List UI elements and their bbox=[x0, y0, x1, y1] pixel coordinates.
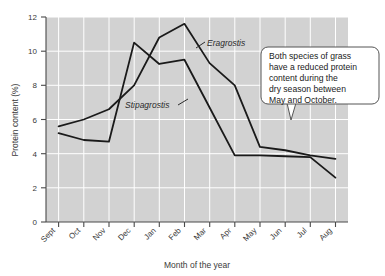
y-tick-label-8: 8 bbox=[33, 81, 38, 90]
month-label-aug: Aug bbox=[317, 226, 333, 242]
month-label-jan: Jan bbox=[142, 226, 157, 241]
y-tick-label-10: 10 bbox=[28, 47, 37, 56]
y-axis-ticks bbox=[41, 17, 46, 222]
callout-text-line-2: have a reduced protein bbox=[269, 62, 357, 72]
x-axis-month-labels: Sept Oct Nov Dec Jan Feb Mar Apr May Jun… bbox=[39, 226, 334, 245]
month-label-sept: Sept bbox=[39, 226, 58, 245]
month-label-dec: Dec bbox=[116, 226, 132, 242]
month-label-oct: Oct bbox=[67, 226, 83, 242]
callout-text-line-1: Both species of grass bbox=[269, 51, 351, 61]
month-label-mar: Mar bbox=[192, 226, 208, 242]
y-tick-label-6: 6 bbox=[33, 116, 38, 125]
month-label-jul: Jul bbox=[295, 226, 309, 240]
y-tick-label-12: 12 bbox=[28, 13, 37, 22]
callout-text-line-4: dry season between bbox=[269, 84, 346, 94]
month-label-apr: Apr bbox=[218, 226, 233, 241]
y-axis-title: Protein content (%) bbox=[10, 83, 20, 156]
month-label-nov: Nov bbox=[91, 226, 107, 242]
callout-text-line-3: content during the bbox=[269, 73, 338, 83]
figure-container: 0 2 4 6 8 10 12 Sept Oct Nov Dec Ja bbox=[0, 0, 385, 276]
x-axis-title: Month of the year bbox=[164, 260, 230, 270]
callout-text-line-5: May and October. bbox=[269, 95, 337, 105]
month-label-jun: Jun bbox=[268, 226, 283, 241]
y-tick-label-4: 4 bbox=[33, 150, 38, 159]
month-label-may: May bbox=[241, 226, 258, 243]
y-tick-label-2: 2 bbox=[33, 184, 38, 193]
month-label-feb: Feb bbox=[167, 226, 184, 243]
series-label-eragrostis: Eragrostis bbox=[207, 38, 246, 48]
series-label-stipagrostis: Stipagrostis bbox=[125, 100, 170, 110]
y-tick-label-0: 0 bbox=[33, 218, 38, 227]
protein-content-line-chart: 0 2 4 6 8 10 12 Sept Oct Nov Dec Ja bbox=[0, 0, 385, 276]
